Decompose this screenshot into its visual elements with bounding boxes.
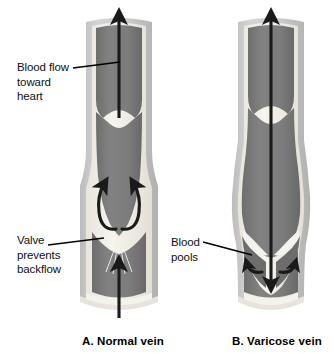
normal-vein-illustration (80, 16, 158, 318)
varicose-vein-illustration (232, 16, 310, 310)
label-blood-pools: Blood pools (171, 235, 200, 264)
label-blood-flow-toward-heart: Blood flow toward heart (17, 60, 69, 104)
label-valve-prevents-backflow: Valve prevents backflow (17, 233, 61, 277)
caption-panel-a-normal-vein: A. Normal vein (82, 335, 164, 347)
caption-panel-b-varicose-vein: B. Varicose vein (232, 335, 322, 347)
vein-diagram-figure: Blood flow toward heart Valve prevents b… (0, 0, 334, 354)
vein-diagram-artwork (0, 0, 334, 354)
